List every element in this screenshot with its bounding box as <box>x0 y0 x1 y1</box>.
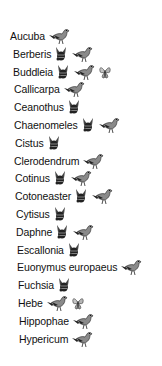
plant-row: Berberis <box>13 45 93 63</box>
plant-row: Clerodendrum <box>14 152 104 170</box>
wildlife-icons <box>71 330 93 348</box>
bird-icon <box>46 294 68 312</box>
bird-icon <box>70 169 92 187</box>
wildlife-icons <box>82 152 104 170</box>
plant-name: Escallonia <box>17 244 64 256</box>
wildlife-icons <box>67 242 81 258</box>
bee-icon <box>56 64 70 80</box>
plant-name: Cotoneaster <box>15 190 71 202</box>
wildlife-icons <box>53 169 92 187</box>
bird-icon <box>72 312 94 330</box>
bee-icon <box>67 99 81 115</box>
bird-icon <box>120 258 142 276</box>
plant-name: Ceanothus <box>14 101 64 113</box>
plant-name: Hypericum <box>19 333 68 345</box>
plant-row: Chaenomeles <box>14 116 120 134</box>
wildlife-icons <box>56 63 112 81</box>
plant-row: Fuchsia <box>18 276 71 294</box>
wildlife-icons <box>67 99 81 115</box>
plant-name: Hebe <box>18 297 43 309</box>
bee-icon <box>53 206 67 222</box>
plant-row: Aucuba <box>10 27 70 45</box>
plant-row: Hippophae <box>19 312 94 330</box>
plant-row: Euonymus europaeus <box>17 258 142 276</box>
wildlife-icons <box>72 312 94 330</box>
plant-name: Daphne <box>16 226 52 238</box>
plant-name: Clerodendrum <box>14 155 79 167</box>
bee-icon <box>74 188 88 204</box>
plant-name: Aucuba <box>10 30 45 42</box>
wildlife-icons <box>120 258 142 276</box>
wildlife-icons <box>46 294 85 312</box>
wildlife-icons <box>48 27 70 45</box>
plant-name: Callicarpa <box>14 83 60 95</box>
plant-name: Chaenomeles <box>14 119 78 131</box>
plant-row: Cotinus <box>15 169 92 187</box>
bee-icon <box>67 242 81 258</box>
bee-icon <box>57 277 71 293</box>
bird-icon <box>63 80 85 98</box>
plant-name: Cistus <box>15 137 44 149</box>
bird-icon <box>91 187 113 205</box>
plant-row: Cytisus <box>16 205 67 223</box>
bird-icon <box>98 116 120 134</box>
wildlife-icons <box>47 135 61 151</box>
bee-icon <box>53 170 67 186</box>
wildlife-icons <box>63 80 85 98</box>
wildlife-icons <box>74 187 113 205</box>
wildlife-icons <box>55 223 94 241</box>
bird-icon <box>71 45 93 63</box>
plant-row: Buddleia <box>13 63 112 81</box>
bird-icon <box>72 223 94 241</box>
plant-row: Daphne <box>16 223 94 241</box>
plant-name: Cotinus <box>15 172 50 184</box>
plant-name: Cytisus <box>16 208 50 220</box>
plant-row: Hebe <box>18 294 85 312</box>
wildlife-icons <box>81 116 120 134</box>
plant-row: Cistus <box>15 134 61 152</box>
bird-icon <box>82 152 104 170</box>
butterfly-icon <box>98 64 112 80</box>
plant-name: Berberis <box>13 48 51 60</box>
bee-icon <box>47 135 61 151</box>
plant-row: Ceanothus <box>14 98 81 116</box>
plant-row: Callicarpa <box>14 80 85 98</box>
plant-name: Fuchsia <box>18 279 54 291</box>
plant-row: Escallonia <box>17 241 81 259</box>
wildlife-icons <box>54 45 93 63</box>
plant-row: Hypericum <box>19 330 93 348</box>
bird-icon <box>73 63 95 81</box>
bee-icon <box>55 224 69 240</box>
wildlife-icons <box>53 206 67 222</box>
bee-icon <box>54 46 68 62</box>
bird-icon <box>71 330 93 348</box>
plant-name: Buddleia <box>13 66 53 78</box>
wildlife-icons <box>57 277 71 293</box>
plant-wildlife-list: Aucuba Berberis Buddleia Callicarpa <box>0 0 162 366</box>
plant-name: Hippophae <box>19 315 69 327</box>
plant-row: Cotoneaster <box>15 187 113 205</box>
butterfly-icon <box>71 295 85 311</box>
bird-icon <box>48 27 70 45</box>
bee-icon <box>81 117 95 133</box>
plant-name: Euonymus europaeus <box>17 261 117 273</box>
